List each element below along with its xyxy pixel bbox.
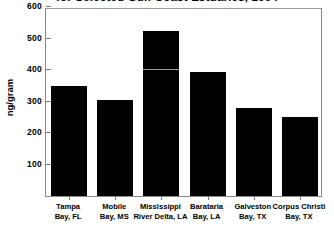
x-axis-label: Corpus ChristiBay, TX [249,202,334,222]
x-axis-tick [161,196,162,200]
y-axis-tick: 400 [46,69,51,70]
x-axis-label-line: Corpus Christi [249,202,334,212]
y-axis-tick-label: 300 [27,96,42,106]
x-axis-tick [254,196,255,200]
y-axis-tick: 600 [46,6,51,7]
y-axis-tick-label: 200 [27,127,42,137]
bar[interactable] [143,31,179,196]
bar[interactable] [51,86,87,196]
x-axis-label-line: Bay, TX [249,212,334,222]
bar[interactable] [282,117,318,196]
y-axis-tick-label: 600 [27,1,42,11]
y-axis-tick-label: 100 [27,159,42,169]
plot-area: 100200300400500600 [45,8,322,197]
bar[interactable] [97,100,133,196]
y-axis-label: ng/gram [4,68,15,128]
x-axis-tick [300,196,301,200]
bar[interactable] [236,108,272,196]
x-axis-tick [69,196,70,200]
y-axis-tick-label: 500 [27,33,42,43]
x-axis-tick [208,196,209,200]
bar-reference-line [143,69,179,70]
y-axis-tick-label: 400 [27,64,42,74]
x-axis-tick [115,196,116,200]
chart-figure: for Selected Gulf Coast Estuaries, 1994 … [0,0,334,232]
chart-title: for Selected Gulf Coast Estuaries, 1994 [0,0,334,3]
y-axis-tick: 500 [46,38,51,39]
bar[interactable] [190,72,226,196]
